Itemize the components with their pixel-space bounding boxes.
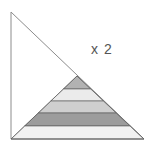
stripe-band (25, 113, 131, 126)
stripe-band (51, 89, 104, 101)
stripe-band (11, 126, 144, 139)
stripe-band (38, 101, 116, 113)
multiplier-label: x 2 (91, 41, 113, 57)
stacked-stripes (11, 76, 144, 139)
triangle-diagram (0, 0, 150, 146)
stripe-band (63, 76, 90, 89)
